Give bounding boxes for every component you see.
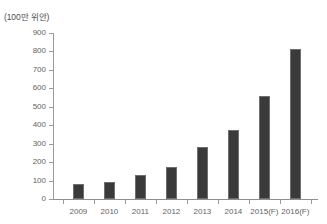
x-axis-tick-mark [156,199,157,204]
x-axis-tick-label: 2016(F) [281,206,309,217]
x-axis-tick-mark [63,199,64,204]
y-axis-tick-label: 400 [33,119,46,130]
x-axis-tick-mark [187,199,188,204]
bar-2012 [166,167,177,199]
y-axis-tick-mark [49,199,53,200]
x-axis-tick-label: 2015(F) [250,206,278,217]
bar-2015f [259,96,270,199]
y-axis-tick-label: 800 [33,45,46,56]
bar-2014 [228,130,239,199]
x-axis-tick-label: 2011 [132,206,149,217]
x-axis-line [53,199,318,200]
x-axis-tick-label: 2009 [70,206,88,217]
x-axis-tick-mark [94,199,95,204]
x-axis-tick-mark [249,199,250,204]
bar-2011 [135,175,146,199]
bar-2010 [104,182,115,199]
bar-2016f [290,49,301,199]
x-axis-tick-mark [125,199,126,204]
y-axis-tick-label: 100 [33,175,46,186]
x-axis-tick-mark [218,199,219,204]
x-axis-tick-mark [311,199,312,204]
y-axis-tick-label: 900 [33,27,46,38]
x-axis-tick-mark [280,199,281,204]
y-axis-tick-label: 700 [33,64,46,75]
bar-2013 [197,147,208,199]
bar-2009 [73,184,84,199]
y-axis-tick-label: 0 [42,193,46,204]
y-axis-tick-label: 500 [33,101,46,112]
x-axis-tick-label: 2013 [193,206,211,217]
y-axis-tick-label: 600 [33,82,46,93]
plot-area [53,33,318,199]
x-axis-tick-label: 2010 [101,206,119,217]
bar-chart: (100만 위안) 0100200300400500600700800900 2… [0,0,327,224]
y-axis-tick-label: 200 [33,156,46,167]
y-axis-unit-label: (100만 위안) [4,12,49,23]
x-axis-tick-label: 2012 [162,206,180,217]
y-axis-tick-label: 300 [33,138,46,149]
x-axis-tick-label: 2014 [224,206,242,217]
